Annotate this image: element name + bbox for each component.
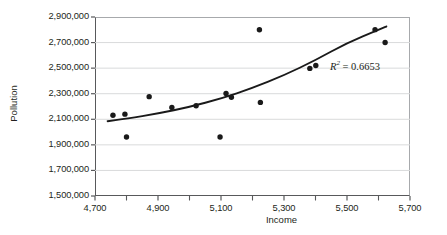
x-tick-label: 4,700 xyxy=(65,203,125,213)
y-tick-label: 1,700,000 xyxy=(49,164,89,174)
y-tick-label: 1,500,000 xyxy=(49,190,89,200)
data-point xyxy=(257,27,262,32)
data-point xyxy=(217,134,222,139)
x-tick-label: 5,100 xyxy=(191,203,251,213)
y-tick-label: 2,300,000 xyxy=(49,88,89,98)
x-tick-label: 5,700 xyxy=(380,203,440,213)
data-point xyxy=(122,111,127,116)
data-point xyxy=(372,27,377,32)
y-axis-title: Pollution xyxy=(8,74,19,134)
data-point xyxy=(229,95,234,100)
y-tick-label: 1,900,000 xyxy=(49,139,89,149)
x-axis-title: Income xyxy=(0,214,447,225)
x-tick-label: 5,500 xyxy=(317,203,377,213)
r-squared-annotation: R2 = 0.6653 xyxy=(330,59,380,72)
x-axis-title-text: Income xyxy=(266,214,297,225)
r-squared-value: = 0.6653 xyxy=(343,61,380,72)
data-point xyxy=(193,103,198,108)
data-point xyxy=(223,91,228,96)
data-point xyxy=(146,94,151,99)
r-squared-exponent: 2 xyxy=(336,59,340,67)
y-tick-label: 2,500,000 xyxy=(49,62,89,72)
data-point xyxy=(124,134,129,139)
data-point xyxy=(258,100,263,105)
trend-line xyxy=(108,26,387,121)
data-point xyxy=(307,66,312,71)
y-axis-ticks xyxy=(91,17,95,196)
x-tick-label: 5,300 xyxy=(254,203,314,213)
data-point xyxy=(313,63,318,68)
x-axis-ticks xyxy=(95,196,410,201)
y-tick-label: 2,700,000 xyxy=(49,37,89,47)
data-point xyxy=(110,112,115,117)
data-point xyxy=(169,105,174,110)
data-point xyxy=(382,40,387,45)
scatter-plot-figure: 1,500,0001,700,0001,900,0002,100,0002,30… xyxy=(0,0,447,235)
y-tick-label: 2,900,000 xyxy=(49,11,89,21)
y-tick-label: 2,100,000 xyxy=(49,113,89,123)
x-tick-label: 4,900 xyxy=(128,203,188,213)
